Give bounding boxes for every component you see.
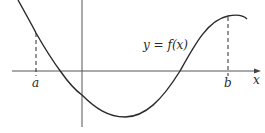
point-a-label: a <box>32 76 39 90</box>
function-curve <box>18 0 247 117</box>
function-label: y = f(x) <box>142 38 188 52</box>
point-b-label: b <box>224 76 232 90</box>
x-axis-label: x <box>253 73 260 87</box>
function-graph: a b x y = f(x) <box>0 0 265 133</box>
